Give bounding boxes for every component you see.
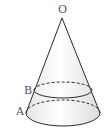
cone-body <box>26 18 100 126</box>
label-apex-o: O <box>58 3 67 16</box>
label-point-a: A <box>15 105 25 118</box>
cone-diagram: O B A <box>0 0 110 137</box>
label-point-b: B <box>24 84 32 97</box>
